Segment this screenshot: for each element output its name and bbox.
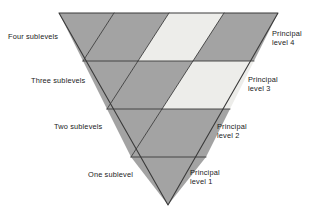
label-principal-level-3-line2: level 3 bbox=[248, 84, 278, 93]
label-principal-level-4: Principal level 4 bbox=[272, 29, 302, 48]
label-principal-level-4-line2: level 4 bbox=[272, 38, 302, 47]
label-principal-level-3: Principal level 3 bbox=[248, 75, 278, 94]
label-principal-level-3-line1: Principal bbox=[248, 75, 278, 84]
row-principal-level-2 bbox=[107, 109, 230, 157]
label-principal-level-1: Principal level 1 bbox=[190, 168, 220, 187]
row-principal-level-3 bbox=[83, 61, 254, 109]
label-principal-level-2-line1: Principal bbox=[217, 122, 247, 131]
sublevel-triangle-figure: Four sublevels Three sublevels Two suble… bbox=[0, 0, 316, 221]
label-four-sublevels: Four sublevels bbox=[8, 32, 58, 41]
label-principal-level-1-line2: level 1 bbox=[190, 177, 220, 186]
label-one-sublevel: One sublevel bbox=[88, 170, 133, 179]
label-three-sublevels: Three sublevels bbox=[31, 76, 85, 85]
label-principal-level-2-line2: level 2 bbox=[217, 131, 247, 140]
label-principal-level-4-line1: Principal bbox=[272, 29, 302, 38]
label-principal-level-2: Principal level 2 bbox=[217, 122, 247, 141]
label-principal-level-1-line1: Principal bbox=[190, 168, 220, 177]
row-principal-level-4 bbox=[59, 13, 278, 61]
label-two-sublevels: Two sublevels bbox=[54, 122, 102, 131]
